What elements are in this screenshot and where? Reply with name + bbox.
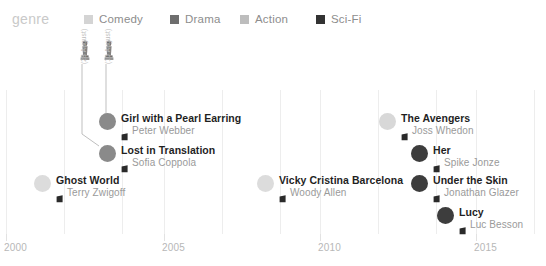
- axis-tick-label: 2015: [474, 242, 497, 253]
- axis-tick-label: 2000: [4, 242, 27, 253]
- film-title: Lost in Translation: [121, 144, 215, 156]
- axis-tick-mark: [320, 234, 321, 241]
- axis-tick-label: 2005: [162, 242, 185, 253]
- axis-tick-mark: [476, 234, 477, 241]
- film-title: Her: [433, 144, 500, 156]
- director-row: Joss Whedon: [401, 125, 474, 137]
- legend-item-label: Sci-Fi: [331, 13, 362, 25]
- director-chair-icon: [279, 189, 287, 197]
- director-chair-icon: [121, 127, 129, 135]
- director-chair-icon: [401, 127, 409, 135]
- data-point-text: HerSpike Jonze: [433, 144, 500, 169]
- data-point[interactable]: Ghost WorldTerry Zwigoff: [34, 174, 125, 199]
- legend-swatch-icon: [316, 15, 325, 24]
- gridline: [6, 90, 7, 234]
- legend-item-label: Drama: [185, 13, 221, 25]
- data-point-dot[interactable]: [437, 207, 454, 224]
- data-point[interactable]: LucyLuc Besson: [437, 206, 523, 231]
- data-point-dot[interactable]: [99, 145, 116, 162]
- award-statue-icon[interactable]: (28 August): [78, 40, 92, 62]
- director-name: Sofia Coppola: [132, 157, 196, 169]
- plot-area: (28 August)(10 August) Girl with a Pearl…: [0, 34, 546, 234]
- director-row: Terry Zwigoff: [56, 187, 125, 199]
- film-title: The Avengers: [401, 112, 474, 124]
- data-point[interactable]: Girl with a Pearl EarringPeter Webber: [99, 112, 241, 137]
- director-chair-icon: [459, 221, 467, 229]
- film-title: Under the Skin: [433, 174, 519, 186]
- data-point[interactable]: Vicky Cristina BarcelonaWoody Allen: [257, 174, 403, 199]
- data-point-text: Vicky Cristina BarcelonaWoody Allen: [279, 174, 403, 199]
- gridline: [280, 90, 281, 234]
- data-point[interactable]: The AvengersJoss Whedon: [379, 112, 474, 137]
- data-point-text: Ghost WorldTerry Zwigoff: [56, 174, 125, 199]
- award-statue-icon[interactable]: (10 August): [102, 40, 116, 62]
- data-point[interactable]: Under the SkinJonathan Glazer: [411, 174, 519, 199]
- award-date-label: (28 August): [80, 29, 87, 64]
- director-chair-icon: [433, 189, 441, 197]
- director-name: Woody Allen: [290, 187, 347, 199]
- axis-tick-mark: [6, 234, 7, 241]
- legend-item-drama[interactable]: Drama: [170, 13, 221, 25]
- legend-item-comedy[interactable]: Comedy: [84, 13, 143, 25]
- data-point-dot[interactable]: [411, 145, 428, 162]
- data-point-text: LucyLuc Besson: [459, 206, 523, 231]
- director-name: Terry Zwigoff: [67, 187, 125, 199]
- data-point-text: Under the SkinJonathan Glazer: [433, 174, 519, 199]
- director-name: Joss Whedon: [412, 125, 474, 137]
- data-point-dot[interactable]: [379, 113, 396, 130]
- legend-swatch-icon: [84, 15, 93, 24]
- legend-title: genre: [12, 11, 49, 27]
- director-name: Spike Jonze: [444, 157, 500, 169]
- data-point-dot[interactable]: [99, 113, 116, 130]
- gridline: [320, 90, 321, 234]
- award-date-label: (10 August): [104, 29, 111, 64]
- data-point-text: The AvengersJoss Whedon: [401, 112, 474, 137]
- data-point-dot[interactable]: [411, 175, 428, 192]
- director-row: Peter Webber: [121, 125, 241, 137]
- data-point-dot[interactable]: [257, 175, 274, 192]
- director-row: Spike Jonze: [433, 157, 500, 169]
- gridline: [64, 90, 65, 234]
- data-point-text: Girl with a Pearl EarringPeter Webber: [121, 112, 241, 137]
- legend-item-sci-fi[interactable]: Sci-Fi: [316, 13, 362, 25]
- data-point[interactable]: HerSpike Jonze: [411, 144, 500, 169]
- director-name: Luc Besson: [470, 219, 523, 231]
- director-chair-icon: [56, 189, 64, 197]
- film-title: Girl with a Pearl Earring: [121, 112, 241, 124]
- data-point-dot[interactable]: [34, 175, 51, 192]
- legend-item-label: Comedy: [99, 13, 143, 25]
- film-title: Ghost World: [56, 174, 125, 186]
- data-point[interactable]: Lost in TranslationSofia Coppola: [99, 144, 215, 169]
- x-axis: 2000200520102015: [0, 234, 546, 266]
- legend-swatch-icon: [240, 15, 249, 24]
- film-title: Lucy: [459, 206, 523, 218]
- director-name: Jonathan Glazer: [444, 187, 519, 199]
- director-row: Sofia Coppola: [121, 157, 215, 169]
- film-title: Vicky Cristina Barcelona: [279, 174, 403, 186]
- axis-tick-mark: [164, 234, 165, 241]
- legend-item-label: Action: [255, 13, 288, 25]
- director-chair-icon: [433, 159, 441, 167]
- legend-item-action[interactable]: Action: [240, 13, 288, 25]
- director-row: Jonathan Glazer: [433, 187, 519, 199]
- director-row: Woody Allen: [279, 187, 403, 199]
- legend-swatch-icon: [170, 15, 179, 24]
- director-name: Peter Webber: [132, 125, 195, 137]
- director-row: Luc Besson: [459, 219, 523, 231]
- gridline: [534, 90, 535, 234]
- data-point-text: Lost in TranslationSofia Coppola: [121, 144, 215, 169]
- director-chair-icon: [121, 159, 129, 167]
- axis-tick-label: 2010: [318, 242, 341, 253]
